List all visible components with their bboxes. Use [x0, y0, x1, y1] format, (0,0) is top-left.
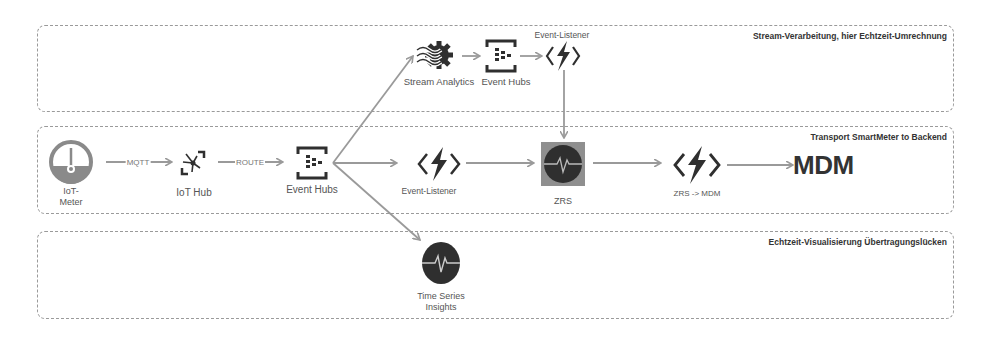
- tsi-label-1: Time Series: [417, 291, 465, 301]
- function-icon: [545, 40, 581, 72]
- stream-analytics-label: Stream Analytics: [404, 76, 475, 87]
- time-series-icon: [541, 142, 585, 186]
- iot-hub-icon: [180, 150, 206, 176]
- event-listener-top-node[interactable]: [545, 40, 581, 72]
- arrow-eventhubs-tsi: [333, 163, 420, 240]
- function-icon: [417, 146, 461, 182]
- arrow-eventhubs-streamanalytics: [333, 56, 413, 163]
- iot-meter-label-2: Meter: [59, 197, 82, 207]
- zrs-mdm-function-node[interactable]: [673, 145, 721, 185]
- event-listener-top-label: Event-Listener: [535, 30, 590, 40]
- event-hubs-icon: [485, 39, 517, 73]
- event-listener-label: Event-Listener: [402, 186, 457, 196]
- zrs-label: ZRS: [554, 196, 572, 206]
- event-hubs-label: Event Hubs: [286, 184, 338, 195]
- event-hubs-top-node[interactable]: [485, 39, 517, 73]
- event-hubs-icon: [296, 146, 328, 180]
- zrs-node[interactable]: [541, 142, 585, 186]
- iot-meter-label-1: IoT-: [63, 186, 79, 196]
- edge-label-route: ROUTE: [235, 158, 265, 167]
- time-series-icon: [421, 241, 461, 285]
- stream-analytics-node[interactable]: [415, 38, 455, 74]
- event-hubs-node[interactable]: [296, 146, 328, 180]
- event-listener-node[interactable]: [417, 146, 461, 182]
- tsi-label-2: Insights: [425, 302, 456, 312]
- gauge-icon: [49, 140, 93, 184]
- iot-hub-node[interactable]: [180, 150, 206, 176]
- edge-label-mqtt: MQTT: [126, 158, 151, 167]
- event-hubs-top-label: Event Hubs: [481, 76, 530, 87]
- stream-analytics-icon: [415, 38, 455, 74]
- time-series-insights-node[interactable]: [421, 241, 461, 285]
- iot-hub-label: IoT Hub: [176, 187, 211, 198]
- mdm-target[interactable]: MDM: [793, 150, 854, 181]
- function-icon: [673, 145, 721, 185]
- iot-meter-node[interactable]: [49, 140, 93, 184]
- zrs-mdm-label: ZRS -> MDM: [674, 189, 721, 198]
